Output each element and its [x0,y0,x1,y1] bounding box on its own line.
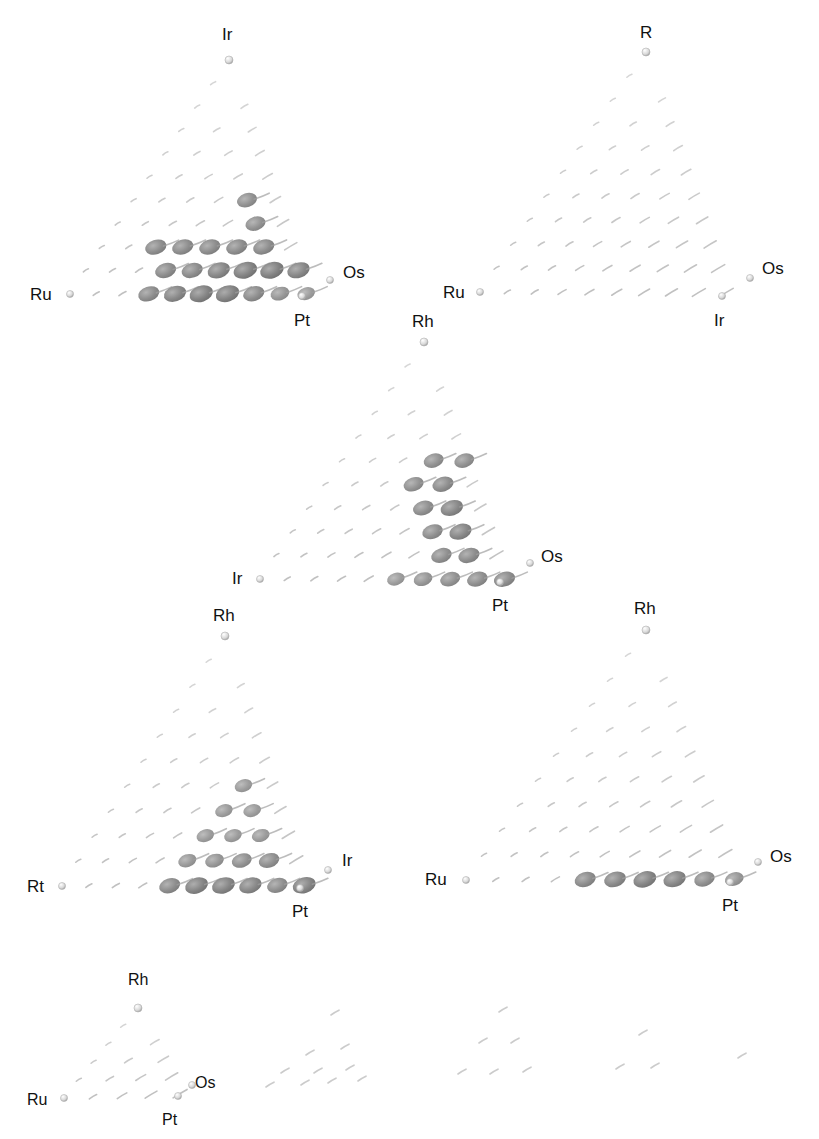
grid-point-faint [609,146,615,150]
grid-point-faint [159,198,165,202]
grid-point-strong [492,569,527,590]
grid-point-faint [594,242,602,247]
grid-point-faint [689,193,699,199]
grid-point-faint [166,1073,178,1080]
vertex-sphere [755,859,762,866]
grid-point-strong [452,451,486,471]
grid-point-faint [301,1080,309,1085]
grid-point-strong [422,451,456,471]
grid-point-strong [257,850,292,870]
grid-point-faint [352,482,358,486]
grid-point-strong [285,259,322,281]
grid-point-strong [251,237,286,258]
grid-point-faint [482,853,487,856]
grid-point-faint [570,852,578,857]
vertex-label: Rh [128,971,148,988]
grid-point-faint [408,411,414,415]
grid-point-faint [490,551,503,559]
grid-point-faint [187,198,194,202]
vertex-sphere [719,293,726,300]
grid-point-faint [136,268,143,272]
grid-point-faint [666,122,674,127]
grid-point-faint [171,759,177,763]
grid-point-faint [176,175,182,179]
grid-point-faint [355,553,363,558]
grid-point-faint [544,194,549,197]
grid-point-faint [639,289,650,296]
grid-point-faint [603,265,612,270]
grid-point-faint [282,831,294,838]
grid-point-faint [318,530,324,534]
grid-point-faint [649,241,659,247]
grid-point-strong [242,802,273,819]
grid-point-faint [640,217,649,223]
grid-point-faint [671,801,681,807]
grid-point-faint [577,146,582,149]
vertex-label: Ru [30,285,52,304]
grid-point-faint [710,825,722,832]
grid-point-faint [267,782,277,788]
grid-point-faint [109,268,115,272]
grid-point-faint [83,269,88,272]
grid-point-faint [290,856,303,864]
grid-point-faint [147,175,152,178]
vertex-label: Rh [634,599,656,618]
vertex-sphere [299,293,306,300]
grid-point-faint [531,290,538,294]
grid-point-faint [275,807,286,814]
grid-point-faint [121,1024,126,1027]
vertex-label: Rh [213,606,235,625]
grid-point-faint [206,659,211,662]
grid-point-faint [331,1010,339,1015]
grid-point-faint [493,878,499,882]
vertex-label: Ir [342,851,353,870]
grid-point-faint [522,877,529,881]
grid-point-faint [712,265,725,273]
grid-point-faint [277,220,288,227]
grid-point-faint [345,529,352,533]
grid-point-faint [677,727,686,732]
grid-point-faint [530,828,536,832]
grid-point-faint [136,1075,146,1081]
vertex-label: Os [195,1074,215,1091]
grid-point-strong [402,474,436,494]
grid-point-faint [210,783,218,788]
grid-point-faint [263,173,273,179]
grid-point-faint [444,410,452,415]
grid-point-faint [91,1060,96,1063]
scattered-points-layer [266,1007,746,1087]
vertex-label: Os [343,263,365,282]
grid-point-faint [174,709,179,712]
grid-point-faint [685,751,695,757]
grid-point-faint [86,884,92,888]
grid-point-strong [250,827,281,844]
grid-point-faint [328,1078,336,1083]
grid-point-faint [125,784,130,787]
vertex-label: Rh [412,312,434,331]
grid-point-faint [301,553,307,557]
grid-point-faint [704,241,716,248]
grid-point-faint [566,242,573,246]
grid-point-faint [652,752,660,757]
grid-point-faint [157,734,162,737]
grid-point-faint [363,505,370,509]
grid-point-faint [511,242,516,245]
grid-point-faint [126,245,132,249]
grid-point-strong [439,497,476,519]
grid-point-faint [541,852,548,856]
grid-point-faint [284,577,290,581]
grid-point-faint [680,825,691,832]
grid-point-faint [93,292,99,296]
grid-point-faint [370,458,376,462]
grid-point-faint [499,1007,507,1012]
vertex-label: Pt [722,896,738,915]
grid-point-faint [194,151,200,155]
grid-point-faint [610,802,618,807]
grid-point-faint [548,266,555,270]
grid-point-faint [328,553,335,557]
grid-point-faint [490,1069,498,1074]
grid-point-faint [719,850,732,858]
vertex-sphere [297,885,304,892]
grid-point-faint [346,1065,354,1070]
grid-point-faint [659,850,670,857]
